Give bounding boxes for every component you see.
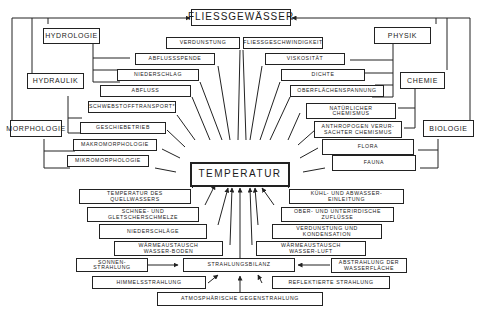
- factor-dichte: DICHTE: [281, 69, 365, 81]
- factor-abstrahlung-wasserflaeche: ABSTRAHLUNG DER WASSERFLÄCHE: [331, 258, 407, 273]
- factor-abflussspende: ABFLUSSSPENDE: [135, 53, 215, 65]
- center-temperatur: TEMPERATUR: [190, 162, 290, 187]
- strahlungsbilanz: STRAHLUNGSBILANZ: [183, 258, 295, 272]
- factor-anthropogener-chemismus: ANTHROPOGEN VERUR- SACHTER CHEMISMUS: [314, 121, 402, 138]
- factor-schneeschmelze: SCHNEE- UND GLETSCHERSCHMELZE: [87, 207, 199, 222]
- factor-schwebstofftransport: SCHWEBSTOFFTRANSPORT*: [88, 101, 176, 113]
- factor-zufluesse: OBER- UND UNTERIRDISCHE ZUFLÜSSE: [281, 207, 394, 222]
- factor-atmosphaerische-gegenstrahlung: ATMOSPHÄRISCHE GEGENSTRAHLUNG: [157, 292, 323, 306]
- factor-himmelsstrahlung: HIMMELSSTRAHLUNG: [92, 276, 206, 289]
- factor-verdunstung: VERDUNSTUNG: [166, 37, 240, 49]
- factor-oberflaechenspannung: OBERFLÄCHENSPANNUNG: [290, 85, 384, 97]
- factor-natuerlicher-chemismus: NATÜRLICHER CHEMISMUS: [306, 103, 396, 119]
- factor-quellwasser-temperatur: TEMPERATUR DES QUELLWASSERS: [79, 189, 191, 204]
- factor-viskositaet: VISKOSITÄT: [265, 53, 345, 65]
- factor-fauna: FAUNA: [332, 155, 416, 171]
- category-chemie: CHEMIE: [400, 72, 445, 89]
- category-morphologie: MORPHOLOGIE: [10, 120, 62, 137]
- factor-abwassereinleitung: KÜHL- UND ABWASSER- EINLEITUNG: [289, 189, 404, 204]
- factor-waermeaustausch-boden: WÄRMEAUSTAUSCH WASSER-BODEN: [114, 241, 223, 256]
- factor-niederschlaege: NIEDERSCHLÄGE: [99, 224, 207, 239]
- factor-fliessgeschwindigkeit: FLIESSGESCHWINDIGKEIT: [243, 37, 323, 49]
- category-hydrologie: HYDROLOGIE: [43, 28, 100, 44]
- factor-mikromorphologie: MIKROMORPHOLOGIE: [67, 155, 149, 167]
- factor-geschiebetrieb: GESCHIEBETRIEB: [80, 122, 166, 134]
- factor-niederschlag: NIEDERSCHLAG: [117, 69, 199, 81]
- category-biologie: BIOLOGIE: [423, 120, 474, 137]
- category-physik: PHYSIK: [374, 27, 431, 44]
- factor-flora: FLORA: [322, 139, 414, 155]
- factor-reflektierte-strahlung: REFLEKTIERTE STRAHLUNG: [272, 276, 390, 289]
- factor-abfluss: ABFLUSS: [100, 85, 191, 97]
- factor-verdunstung-kondensation: VERDUNSTUNG UND KONDENSATION: [272, 224, 382, 239]
- factor-waermeaustausch-luft: WÄRMEAUSTAUSCH WASSER-LUFT: [256, 241, 366, 256]
- factor-sonnenstrahlung: SONNEN- STRAHLUNG: [76, 258, 148, 272]
- title-fliessgewaesser: FLIESSGEWÄSSER: [191, 9, 291, 26]
- factor-makromorphologie: MAKROMORPHOLOGIE: [73, 139, 157, 151]
- category-hydraulik: HYDRAULIK: [27, 73, 84, 89]
